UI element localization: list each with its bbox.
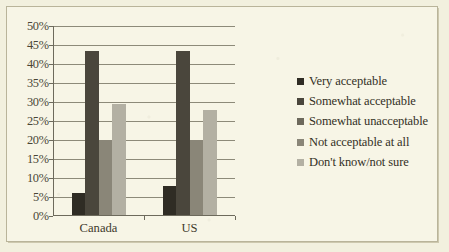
legend-item: Don't know/not sure <box>297 153 447 173</box>
x-tick-mark <box>144 216 145 220</box>
legend-label: Don't know/not sure <box>309 155 409 170</box>
legend-label: Somewhat acceptable <box>309 94 416 109</box>
y-tick-label: 10% <box>11 171 49 186</box>
x-axis-category-label: Canada <box>53 221 144 236</box>
legend-swatch-icon <box>297 78 304 85</box>
y-tick-label: 45% <box>11 38 49 53</box>
x-axis-category-label: US <box>144 221 235 236</box>
legend-item: Not acceptable at all <box>297 132 447 152</box>
legend-swatch-icon <box>297 118 304 125</box>
y-tick-label: 25% <box>11 114 49 129</box>
legend-item: Very acceptable <box>297 71 447 91</box>
y-tick-label: 5% <box>11 190 49 205</box>
plot-area <box>53 26 235 216</box>
legend-item: Somewhat unacceptable <box>297 112 447 132</box>
legend-swatch-icon <box>297 98 304 105</box>
chart-frame: 0%5%10%15%20%25%30%35%40%45%50% CanadaUS… <box>6 6 438 242</box>
y-tick-label: 35% <box>11 76 49 91</box>
y-tick-label: 30% <box>11 95 49 110</box>
legend-label: Not acceptable at all <box>309 135 409 150</box>
legend-swatch-icon <box>297 139 304 146</box>
chart-page: 0%5%10%15%20%25%30%35%40%45%50% CanadaUS… <box>0 0 449 252</box>
legend-label: Somewhat unacceptable <box>309 114 428 129</box>
x-tick-mark <box>235 216 236 220</box>
legend-swatch-icon <box>297 159 304 166</box>
y-tick-label: 40% <box>11 57 49 72</box>
y-axis-labels: 0%5%10%15%20%25%30%35%40%45%50% <box>7 26 49 216</box>
plot-axes <box>53 26 235 216</box>
y-tick-label: 50% <box>11 19 49 34</box>
y-tick-label: 20% <box>11 133 49 148</box>
y-tick-label: 15% <box>11 152 49 167</box>
chart-legend: Very acceptableSomewhat acceptableSomewh… <box>297 71 447 173</box>
legend-item: Somewhat acceptable <box>297 91 447 111</box>
legend-label: Very acceptable <box>309 74 387 89</box>
y-tick-label: 0% <box>11 209 49 224</box>
y-tick-mark <box>49 216 53 217</box>
